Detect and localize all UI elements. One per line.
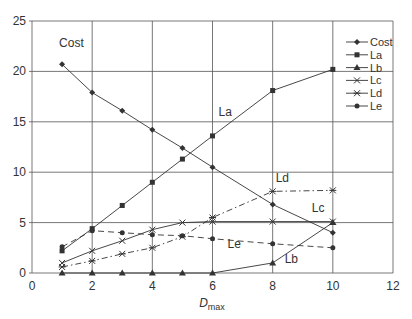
y-tick-label: 5: [19, 216, 26, 230]
annotation-cost: Cost: [59, 36, 84, 50]
annotation-lb: Lb: [285, 252, 299, 266]
x-axis-ticks: 024681012: [29, 279, 400, 293]
grid-lines: [32, 21, 393, 273]
x-tick-label: 10: [326, 279, 340, 293]
legend-label: Ld: [370, 87, 382, 99]
y-axis-ticks: 0510152025: [13, 14, 32, 280]
y-tick-label: 10: [13, 165, 27, 179]
legend-label: La: [370, 49, 383, 61]
legend-label: Le: [370, 100, 382, 112]
series-lb: [59, 219, 337, 275]
legend-item-le: Le: [346, 100, 382, 112]
x-tick-label: 6: [209, 279, 216, 293]
annotation-lc: Lc: [312, 201, 325, 215]
x-tick-label: 8: [269, 279, 276, 293]
y-tick-label: 0: [19, 266, 26, 280]
line-chart: 0510152025 024681012 CostLaLdLcLeLb Cost…: [0, 0, 412, 319]
y-tick-label: 20: [13, 64, 27, 78]
legend-label: Lb: [370, 62, 382, 74]
series-la: [60, 67, 336, 253]
legend-item-lc: Lc: [346, 74, 382, 86]
x-tick-label: 2: [89, 279, 96, 293]
legend: CostLaLbLcLdLe: [346, 36, 393, 112]
data-series: [59, 61, 337, 275]
y-tick-label: 25: [13, 14, 27, 28]
legend-item-cost: Cost: [346, 36, 393, 48]
legend-label: Lc: [370, 74, 382, 86]
annotation-la: La: [219, 105, 233, 119]
x-tick-label: 12: [386, 279, 400, 293]
annotation-le: Le: [228, 237, 242, 251]
x-axis-label: Dmax: [199, 296, 225, 312]
series-le: [60, 228, 336, 250]
legend-label: Cost: [370, 36, 393, 48]
x-tick-label: 4: [149, 279, 156, 293]
legend-item-la: La: [346, 49, 383, 61]
y-tick-label: 15: [13, 115, 27, 129]
series-cost: [59, 61, 336, 235]
legend-item-ld: Ld: [346, 87, 382, 99]
x-tick-label: 0: [29, 279, 36, 293]
annotation-ld: Ld: [276, 171, 289, 185]
